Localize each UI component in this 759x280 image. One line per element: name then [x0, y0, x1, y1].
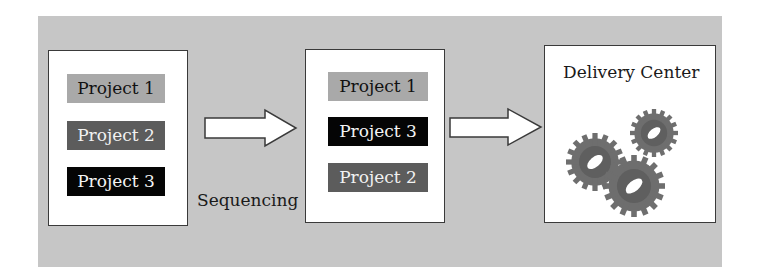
gears-icon — [0, 0, 759, 280]
gear-icon — [630, 109, 678, 157]
gear-icon — [603, 155, 665, 217]
